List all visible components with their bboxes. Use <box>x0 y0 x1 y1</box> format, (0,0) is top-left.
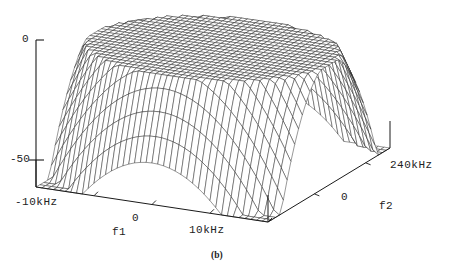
figure-container: 0 -50 -10kHz 0 10kHz f1 0 240kHz f2 (b) <box>0 0 458 276</box>
y-axis-tick-zero: 0 <box>341 191 348 203</box>
x-axis-label: f1 <box>112 226 126 238</box>
y-axis-tick-max: 240kHz <box>390 159 433 171</box>
x-axis-tick-min: -10kHz <box>15 196 58 208</box>
z-axis-tick-bottom: -50 <box>10 153 30 165</box>
x-axis-tick-mid: 0 <box>132 212 139 224</box>
wireframe-mesh <box>36 15 390 222</box>
y-axis-label: f2 <box>379 200 393 212</box>
figure-caption: (b) <box>211 250 223 260</box>
z-axis-tick-top: 0 <box>22 33 29 45</box>
surface-plot-canvas <box>0 0 458 276</box>
x-axis-tick-max: 10kHz <box>189 224 225 236</box>
